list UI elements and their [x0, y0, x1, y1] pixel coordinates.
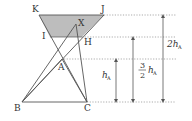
- label-h: H: [84, 37, 92, 47]
- label-b: B: [14, 103, 21, 113]
- label-two-h-sub: A: [177, 44, 182, 50]
- edge-bx: [22, 24, 76, 102]
- label-h-a: h A: [102, 70, 111, 81]
- edge-ba: [22, 59, 62, 102]
- label-k: K: [32, 4, 39, 14]
- label-x: X: [78, 18, 85, 28]
- label-frac-num: 3: [140, 61, 145, 70]
- label-j: J: [100, 4, 105, 14]
- label-frac-den: 2: [140, 71, 145, 80]
- label-two-h-a: 2h A: [166, 39, 182, 50]
- label-h-a-sub: A: [106, 75, 111, 81]
- label-i: I: [42, 31, 46, 41]
- geometry-diagram: K J I H X A B C h A 3 2 h A 2h A: [0, 0, 192, 121]
- label-frac-sub: A: [152, 70, 157, 76]
- label-two-h-main: 2h: [166, 39, 179, 49]
- label-a: A: [57, 62, 65, 72]
- label-three-halves-h-a: 3 2 h A: [139, 61, 158, 80]
- label-c: C: [84, 103, 91, 113]
- edge-ac: [62, 59, 87, 102]
